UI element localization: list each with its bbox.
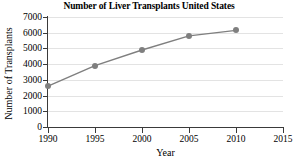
y-axis-tick	[43, 111, 48, 112]
plot-area	[48, 17, 283, 127]
data-point-marker	[186, 33, 192, 39]
gridline	[48, 64, 283, 65]
y-axis-tick	[43, 64, 48, 65]
gridline	[48, 17, 283, 18]
y-axis-tick	[43, 96, 48, 97]
y-axis-tick-label: 7000	[0, 12, 42, 22]
data-point-marker	[139, 47, 145, 53]
y-axis-tick-label: 1000	[0, 106, 42, 116]
x-axis-title: Year	[48, 147, 283, 158]
y-axis-tick	[43, 80, 48, 81]
y-axis-tick-label: 0	[0, 122, 42, 132]
x-axis-tick-label: 2010	[216, 134, 256, 144]
gridline	[48, 96, 283, 97]
x-axis-tick	[283, 128, 284, 133]
data-point-marker	[92, 63, 98, 69]
y-axis-tick	[43, 48, 48, 49]
x-axis-tick	[48, 128, 49, 133]
x-axis-line	[47, 127, 284, 128]
x-axis-tick-label: 2005	[169, 134, 209, 144]
y-axis-tick	[43, 33, 48, 34]
y-axis-tick-label: 6000	[0, 28, 42, 38]
y-axis-tick-label: 2000	[0, 91, 42, 101]
x-axis-tick-label: 2015	[263, 134, 298, 144]
y-axis-tick-label: 4000	[0, 59, 42, 69]
x-axis-tick	[95, 128, 96, 133]
x-axis-tick	[189, 128, 190, 133]
gridline	[48, 33, 283, 34]
x-axis-tick	[236, 128, 237, 133]
chart-figure: Number of Liver Transplants United State…	[0, 0, 298, 165]
y-axis-tick	[43, 17, 48, 18]
gridline	[48, 48, 283, 49]
chart-title: Number of Liver Transplants United State…	[0, 1, 298, 12]
x-axis-tick-label: 1995	[75, 134, 115, 144]
gridline	[48, 80, 283, 81]
x-axis-tick-label: 1990	[28, 134, 68, 144]
y-axis-tick-label: 5000	[0, 43, 42, 53]
x-axis-tick-label: 2000	[122, 134, 162, 144]
x-axis-tick	[142, 128, 143, 133]
y-axis-tick-label: 3000	[0, 75, 42, 85]
gridline	[48, 111, 283, 112]
